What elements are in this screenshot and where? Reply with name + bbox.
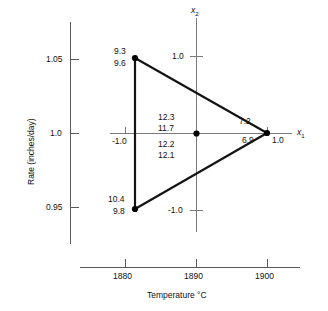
annotation-center-value-1: 12.3 <box>158 113 175 122</box>
outer-x-axis <box>80 259 300 268</box>
point-bottom-left-vertex <box>132 206 138 212</box>
inner-xtick-pos-1: 1.0 <box>272 136 284 145</box>
inner-x-axis-title: x1 <box>297 128 305 139</box>
outer-y-axis-title: Rate (inches/day) <box>26 118 36 185</box>
outer-ytick-1-05: 1.05 <box>46 55 63 64</box>
outer-y-axis <box>71 22 80 244</box>
point-top-left-vertex <box>132 55 138 61</box>
inner-x-axis-title-subscript: 1 <box>301 132 304 139</box>
inner-y-axis-title: x2 <box>191 6 199 17</box>
annotation-right-vertex-value-2: 6.9 <box>242 136 254 145</box>
annotation-right-vertex-value-1: 7.2 <box>239 117 251 126</box>
inner-y-axis-title-subscript: 2 <box>195 10 198 17</box>
outer-xtick-1890: 1890 <box>184 272 203 281</box>
annotation-top-vertex-value-1: 9.3 <box>114 47 126 56</box>
outer-x-axis-title-text: Temperature <box>147 290 197 300</box>
annotation-top-vertex-value-2: 9.6 <box>114 59 126 68</box>
annotation-bottom-vertex-value-1: 10.4 <box>108 195 125 204</box>
inner-ytick-neg-1: -1.0 <box>168 206 183 215</box>
degree-celsius-unit: °C <box>197 290 207 300</box>
outer-ytick-1-0: 1.0 <box>50 129 62 138</box>
inner-xtick-neg-1: -1.0 <box>112 137 127 146</box>
outer-ytick-0-95: 0.95 <box>46 203 63 212</box>
outer-xtick-1900: 1900 <box>255 272 274 281</box>
outer-x-axis-title: Temperature °C <box>147 291 207 300</box>
annotation-center-value-2: 11.7 <box>158 124 174 133</box>
outer-xtick-1880: 1880 <box>113 272 132 281</box>
annotation-center-value-3: 12.2 <box>158 140 175 149</box>
figure-simplex-design-plot: 1.05 1.0 0.95 1880 1890 1900 Rate (inche… <box>0 0 328 311</box>
inner-ytick-pos-1: 1.0 <box>172 52 184 61</box>
point-center <box>193 130 199 136</box>
annotation-bottom-vertex-value-2: 9.8 <box>113 207 125 216</box>
point-right-vertex <box>264 130 270 136</box>
annotation-center-value-4: 12.1 <box>158 151 175 160</box>
inner-axes <box>110 18 292 232</box>
